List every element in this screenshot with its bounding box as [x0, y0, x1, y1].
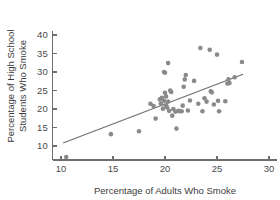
data-point [186, 108, 191, 113]
data-point [232, 75, 237, 80]
data-point [137, 129, 142, 134]
data-point [215, 52, 220, 57]
y-tick-label: 20 [37, 103, 48, 114]
data-point [188, 98, 193, 103]
data-point [212, 102, 217, 107]
data-point [179, 109, 184, 114]
data-point [169, 90, 174, 95]
x-axis-title: Percentage of Adults Who Smoke [94, 185, 236, 196]
data-point [163, 70, 168, 75]
trendline-group [63, 74, 243, 143]
x-tick-label: 20 [160, 163, 171, 174]
y-tick-label: 30 [37, 66, 48, 77]
data-point [198, 46, 203, 51]
data-point [180, 103, 185, 108]
data-point [170, 113, 175, 118]
y-axis-title-line2: Students Who Smoke [17, 40, 28, 132]
y-axis-title-line1: Percentage of High School [5, 29, 16, 142]
data-point [240, 60, 245, 65]
data-point [109, 132, 114, 137]
data-point [166, 99, 171, 104]
data-point [184, 73, 189, 78]
data-point [204, 99, 209, 104]
data-point [164, 94, 169, 99]
scatter-plot-figure: 10152025303540 1015202530 Percentage of … [0, 0, 280, 200]
x-axis-ticks: 1015202530 [56, 156, 275, 175]
plot-canvas: 10152025303540 1015202530 Percentage of … [0, 0, 280, 200]
data-point [227, 81, 232, 86]
x-tick-label: 25 [212, 163, 223, 174]
data-point [216, 99, 221, 104]
data-point [181, 85, 186, 90]
data-point [217, 109, 222, 114]
y-tick-label: 35 [37, 48, 48, 59]
y-tick-label: 15 [37, 122, 48, 133]
data-point [174, 126, 179, 131]
axes-group: 10152025303540 1015202530 [37, 29, 277, 174]
data-point [153, 116, 158, 121]
regression-line [63, 74, 243, 143]
data-points-group [64, 46, 244, 160]
x-tick-label: 15 [108, 163, 119, 174]
y-tick-label: 25 [37, 85, 48, 96]
y-tick-label: 40 [37, 29, 48, 40]
y-tick-label: 10 [37, 140, 48, 151]
data-point [196, 102, 201, 107]
data-point [162, 99, 167, 104]
data-point [64, 155, 69, 160]
data-point [182, 77, 187, 82]
data-point [210, 90, 215, 95]
data-point [200, 109, 205, 114]
data-point [207, 48, 212, 53]
data-point [192, 79, 197, 84]
x-tick-label: 30 [264, 163, 275, 174]
data-point [166, 61, 171, 66]
data-point [223, 99, 228, 104]
data-point [151, 104, 156, 109]
x-tick-label: 10 [56, 163, 67, 174]
data-point [167, 109, 172, 114]
y-axis-ticks: 10152025303540 [37, 29, 57, 151]
